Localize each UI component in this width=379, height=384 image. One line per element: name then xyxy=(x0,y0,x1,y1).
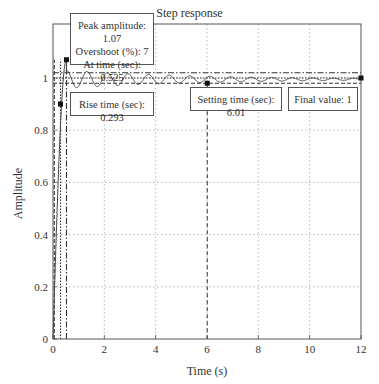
settling-time-annotation: Setting time (sec): 6.01 xyxy=(190,87,282,111)
x-tick-label: 2 xyxy=(102,343,108,355)
y-tick-label: 0.4 xyxy=(34,229,48,241)
marker-settling-time xyxy=(205,81,210,86)
marker-final-value xyxy=(359,76,364,81)
final-value-text: Final value: 1 xyxy=(289,93,357,106)
y-tick-label: 1 xyxy=(43,72,49,84)
marker-peak xyxy=(64,57,69,62)
settling-time-text: Setting time (sec): 6.01 xyxy=(191,93,281,119)
x-tick-label: 8 xyxy=(256,343,262,355)
step-response-chart: 02468101200.20.40.60.81 xyxy=(0,0,379,384)
chart-title: Step response xyxy=(0,6,379,21)
x-tick-label: 6 xyxy=(204,343,210,355)
overshoot-text: Overshoot (%): 7 xyxy=(71,45,153,58)
y-tick-label: 0.8 xyxy=(34,124,48,136)
y-tick-label: 0.2 xyxy=(34,281,48,293)
peak-amplitude-text: Peak amplitude: 1.07 xyxy=(71,19,153,45)
x-tick-label: 12 xyxy=(356,343,367,355)
rise-time-text: Rise time (sec): 0.293 xyxy=(71,98,153,124)
y-axis-label: Amplitude xyxy=(11,164,26,224)
y-tick-label: 0.6 xyxy=(34,176,48,188)
x-axis-label: Time (s) xyxy=(53,364,361,379)
marker-rise-time xyxy=(58,102,63,107)
final-value-annotation: Final value: 1 xyxy=(288,87,358,111)
x-tick-label: 4 xyxy=(153,343,159,355)
x-tick-label: 10 xyxy=(304,343,316,355)
rise-time-annotation: Rise time (sec): 0.293 xyxy=(70,92,154,116)
peak-time-text: At time (sec): 0.525 xyxy=(71,58,153,84)
x-tick-label: 0 xyxy=(50,343,56,355)
y-tick-label: 0 xyxy=(43,333,49,345)
peak-annotation: Peak amplitude: 1.07 Overshoot (%): 7 At… xyxy=(70,13,154,65)
